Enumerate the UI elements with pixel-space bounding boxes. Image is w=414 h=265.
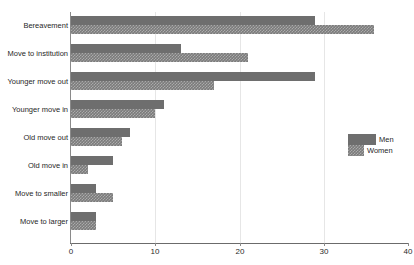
- bar-men-move-to-larger: [71, 212, 96, 221]
- bar-men-old-move-in: [71, 156, 113, 165]
- bar-men-younger-move-out: [71, 72, 315, 81]
- x-tick-label-10: 10: [151, 247, 160, 257]
- category-label-bereavement: Bereavement: [23, 21, 68, 30]
- bar-women-younger-move-in: [71, 109, 155, 118]
- category-label-younger-move-out: Younger move out: [7, 77, 68, 86]
- bar-chart: 0 10 20 30 40 Bereavement Move to instit…: [0, 0, 414, 265]
- legend-label-men: Men: [379, 135, 394, 144]
- gridline-20: [240, 12, 241, 243]
- bar-women-move-to-institution: [71, 53, 248, 62]
- category-label-old-move-out: Old move out: [23, 133, 68, 142]
- x-tick-label-20: 20: [236, 247, 245, 257]
- chart-legend: Men Women: [348, 134, 410, 162]
- category-label-younger-move-in: Younger move in: [12, 105, 68, 114]
- bar-women-bereavement: [71, 25, 374, 34]
- x-tick-mark-40: [408, 243, 409, 246]
- bar-men-bereavement: [71, 16, 315, 25]
- x-tick-label-30: 30: [320, 247, 329, 257]
- bar-men-old-move-out: [71, 128, 130, 137]
- bar-women-old-move-in: [71, 165, 88, 174]
- legend-label-women: Women: [367, 146, 393, 155]
- x-tick-mark-10: [155, 243, 156, 246]
- bar-men-younger-move-in: [71, 100, 164, 109]
- category-label-move-to-institution: Move to institution: [8, 49, 68, 58]
- bar-men-move-to-smaller: [71, 184, 96, 193]
- category-label-move-to-larger: Move to larger: [20, 217, 68, 226]
- category-label-old-move-in: Old move in: [28, 161, 68, 170]
- bar-women-move-to-smaller: [71, 193, 113, 202]
- x-tick-mark-0: [71, 243, 72, 246]
- x-tick-label-0: 0: [69, 247, 73, 257]
- x-tick-label-40: 40: [404, 247, 413, 257]
- bar-women-move-to-larger: [71, 221, 96, 230]
- bar-women-old-move-out: [71, 137, 122, 146]
- bar-women-younger-move-out: [71, 81, 214, 90]
- category-label-move-to-smaller: Move to smaller: [15, 189, 68, 198]
- legend-swatch-women-icon: [348, 145, 364, 156]
- x-tick-mark-20: [240, 243, 241, 246]
- y-axis-line: [70, 12, 71, 243]
- x-tick-mark-30: [324, 243, 325, 246]
- bar-men-move-to-institution: [71, 44, 181, 53]
- legend-swatch-men-icon: [348, 134, 376, 145]
- gridline-30: [324, 12, 325, 243]
- plot-area: [71, 12, 408, 243]
